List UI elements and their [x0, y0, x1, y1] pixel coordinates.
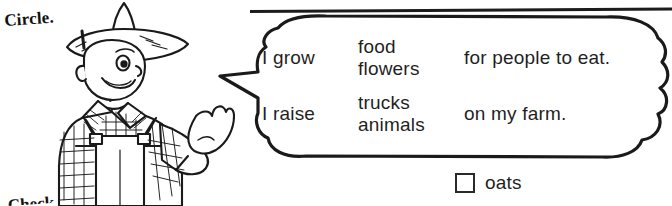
checkbox-item-oats[interactable]: oats	[455, 172, 522, 194]
horizontal-rule	[250, 7, 672, 13]
speech-bubble	[186, 14, 672, 160]
checkbox-icon[interactable]	[455, 173, 475, 193]
worksheet-canvas: Circle.	[0, 0, 672, 206]
checkbox-label-oats: oats	[485, 172, 522, 194]
